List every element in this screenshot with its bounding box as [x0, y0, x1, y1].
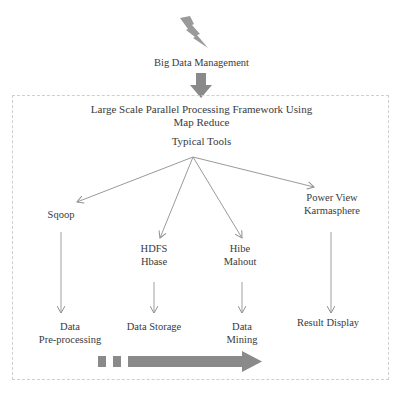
arrow-to-sqoop	[77, 157, 193, 202]
tool-powerview-line1: Power View	[296, 191, 368, 204]
stage-preprocessing-line1: Data	[34, 320, 106, 333]
tool-hibe-line2: Mahout	[215, 255, 265, 268]
tool-sqoop-line1: Sqoop	[36, 208, 86, 221]
stage-storage-line1: Data Storage	[118, 320, 190, 333]
stage-display-line1: Result Display	[288, 316, 368, 329]
tool-hdfs-line1: HDFS	[129, 242, 179, 255]
progress-arrow-icon	[96, 351, 266, 375]
tool-hibe-line1: Hibe	[215, 242, 265, 255]
stage-data-mining: Data Mining	[212, 320, 272, 346]
arrow-to-hdfs	[160, 157, 193, 238]
stage-result-display: Result Display	[288, 316, 368, 329]
tool-powerview-line2: Karmasphere	[296, 204, 368, 217]
tool-sqoop: Sqoop	[36, 208, 86, 221]
tool-hdfs-line2: Hbase	[129, 255, 179, 268]
tool-hibe-mahout: Hibe Mahout	[215, 242, 265, 268]
stage-data-preprocessing: Data Pre-processing	[34, 320, 106, 346]
tool-power-view-karmasphere: Power View Karmasphere	[296, 191, 368, 217]
arrow-to-power-view	[193, 157, 314, 187]
tool-hdfs-hbase: HDFS Hbase	[129, 242, 179, 268]
stage-data-storage: Data Storage	[118, 320, 190, 333]
stage-mining-line1: Data	[212, 320, 272, 333]
arrow-to-hibe	[193, 157, 242, 238]
stage-preprocessing-line2: Pre-processing	[34, 333, 106, 346]
stage-mining-line2: Mining	[212, 333, 272, 346]
